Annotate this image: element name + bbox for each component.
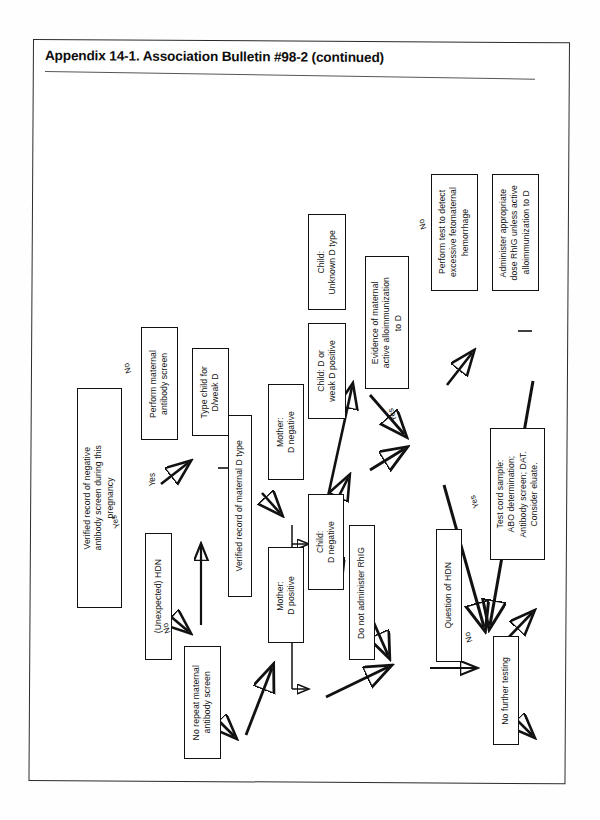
node-perform-test-fetomaternal-hemorrhage[interactable]: Perform test to detect excessive fetomat… [431,174,478,291]
scanned-page: Appendix 14-1. Association Bulletin #98-… [0,0,600,820]
edge-label-no-4: No [463,631,475,644]
node-label: Child: D or weak D positive [316,340,339,402]
edge-label-yes-2: Yes [148,473,157,486]
node-label: No further testing [500,657,511,725]
node-label: Child: Unknown D type [316,230,339,294]
node-label: Perform maternal antibody screen [148,350,171,418]
page-title: Appendix 14-1. Association Bulletin #98-… [45,48,515,66]
node-label: Evidence of maternal active alloimmuniza… [370,277,404,368]
node-mother-d-negative[interactable]: Mother: D negative [268,384,304,480]
edge-label-yes-4: Yes [468,494,481,509]
node-child-unknown-d-type[interactable]: Child: Unknown D type [308,214,346,310]
node-label: Verified record of negative antibody scr… [82,445,116,550]
node-label: Mother: D positive [275,576,298,615]
node-administer-rhig[interactable]: Administer appropriate dose RhIG unless … [492,174,539,291]
node-label: Do not administer RhIG [356,547,367,639]
node-label: (Unexpected) HDN [153,559,164,633]
node-label: Type child for D/weak D [199,366,222,419]
node-label: No repeat maternal antibody screen [191,665,214,740]
node-do-not-administer-rhig[interactable]: Do not administer RhIG [349,525,375,660]
edge-label-no-1: No [122,362,134,375]
node-label: Child: D negative [315,521,338,563]
node-question-of-hdn[interactable]: Question of HDN [436,529,462,662]
edge-label-no-3: No [417,218,429,231]
node-no-further-testing[interactable]: No further testing [493,636,519,745]
node-child-d-or-weak-d-positive[interactable]: Child: D or weak D positive [308,323,346,419]
node-label: Mother: D negative [275,411,298,453]
node-mother-d-positive[interactable]: Mother: D positive [268,547,304,643]
node-label: Question of HDN [443,562,454,628]
node-no-repeat-maternal-antibody-screen[interactable]: No repeat maternal antibody screen [184,646,221,759]
node-test-cord-sample[interactable]: Test cord sample: ABO determination; Ant… [490,428,545,560]
node-verified-negative-antibody-screen[interactable]: Verified record of negative antibody scr… [77,388,122,608]
node-label: Verified record of maternal D type [234,440,245,571]
node-label: Perform test to detect excessive fetomat… [437,187,471,277]
node-label: Administer appropriate dose RhIG unless … [498,185,532,280]
node-label: Test cord sample: ABO determination; Ant… [495,451,541,537]
node-verified-record-maternal-d-type[interactable]: Verified record of maternal D type [228,415,252,597]
node-child-d-negative[interactable]: Child: D negative [308,494,344,590]
node-unexpected-hdn[interactable]: (Unexpected) HDN [145,533,172,660]
node-perform-maternal-antibody-screen[interactable]: Perform maternal antibody screen [141,327,178,440]
flowchart: Management at Delivery [40,95,560,765]
node-type-child-for-d-weak-d[interactable]: Type child for D/weak D [192,348,229,436]
edge-label-yes-3: Yes [386,407,399,422]
node-evidence-maternal-alloimmunization[interactable]: Evidence of maternal active alloimmuniza… [365,256,409,389]
